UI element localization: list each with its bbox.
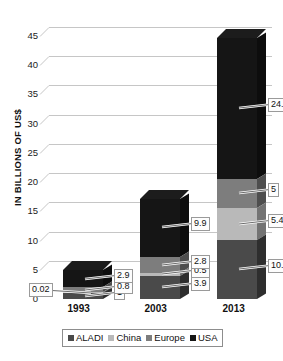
x-tick-label: 1993: [40, 303, 117, 314]
bar-segment-aladi[interactable]: [63, 293, 103, 299]
bar-segment-side-face: [257, 234, 266, 299]
bar-segment-aladi[interactable]: [217, 240, 257, 299]
x-axis-category-labels: 199320032013: [40, 303, 272, 319]
data-label: 2.9: [114, 269, 133, 283]
bar-segment-aladi[interactable]: [140, 276, 180, 299]
data-label: 9.9: [191, 217, 210, 231]
bar-segment-usa[interactable]: [217, 38, 257, 179]
data-label: 5.4: [268, 214, 283, 228]
legend-label: China: [116, 332, 141, 343]
y-tick-label: 10: [16, 236, 38, 246]
legend-swatch-icon: [190, 335, 196, 341]
legend-item-europe[interactable]: Europe: [146, 332, 185, 343]
y-tick-label: 40: [16, 60, 38, 70]
stacked-bar-chart: IN BILLIONS OF US$ 051015202530354045 10…: [0, 0, 283, 361]
data-label: 10.1: [268, 259, 283, 273]
plot-area: 10.020.82.93.90.52.89.910.15.4524.1: [40, 16, 272, 301]
legend-swatch-icon: [68, 335, 74, 341]
bar-segment-europe[interactable]: [140, 257, 180, 273]
y-axis-tick-labels: 051015202530354045: [14, 0, 38, 361]
legend-item-usa[interactable]: USA: [190, 332, 218, 343]
legend-item-aladi[interactable]: ALADI: [68, 332, 103, 343]
bar-segment-side-face: [180, 193, 189, 256]
bar-segment-usa[interactable]: [140, 199, 180, 257]
bar-segment-usa[interactable]: [63, 270, 103, 287]
bar-segment-side-face: [257, 33, 266, 179]
bar-segment-europe[interactable]: [217, 179, 257, 208]
y-tick-label: 25: [16, 148, 38, 158]
y-tick-label: 5: [16, 265, 38, 275]
legend-item-china[interactable]: China: [108, 332, 141, 343]
data-label: 2.8: [191, 255, 210, 269]
legend-label: ALADI: [76, 332, 103, 343]
y-tick-label: 30: [16, 119, 38, 129]
y-tick-label: 35: [16, 89, 38, 99]
data-label: 0.02: [29, 283, 53, 297]
legend-label: Europe: [154, 332, 185, 343]
bar-stack: [217, 38, 257, 299]
legend-swatch-icon: [146, 335, 152, 341]
y-tick-label: 15: [16, 206, 38, 216]
data-label: 24.1: [268, 98, 283, 112]
data-label: 5: [268, 183, 279, 197]
bar-stack: [63, 270, 103, 299]
legend-swatch-icon: [108, 335, 114, 341]
bar-segment-side-face: [180, 271, 189, 299]
x-tick-label: 2013: [195, 303, 272, 314]
x-tick-label: 2003: [117, 303, 194, 314]
legend-label: USA: [198, 332, 218, 343]
y-tick-label: 20: [16, 177, 38, 187]
y-tick-label: 45: [16, 31, 38, 41]
chart-legend: ALADIChinaEuropeUSA: [62, 329, 223, 347]
data-label: 3.9: [191, 277, 210, 291]
bar-segment-china[interactable]: [217, 208, 257, 240]
bar-stack: [140, 199, 180, 299]
